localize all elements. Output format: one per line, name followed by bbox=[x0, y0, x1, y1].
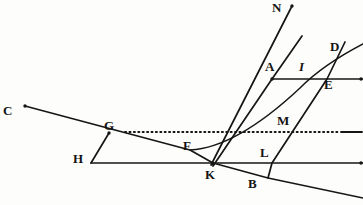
point-dots-group bbox=[23, 4, 362, 165]
figure-canvas: CGHFKBLMNAIDE bbox=[0, 0, 363, 205]
point-label-L: L bbox=[260, 146, 269, 159]
point-dot-A bbox=[270, 77, 273, 80]
point-label-A: A bbox=[265, 60, 274, 73]
ray-K-through-A-toward-D bbox=[213, 36, 302, 166]
endpoint-dot-C bbox=[23, 104, 26, 107]
point-label-G: G bbox=[104, 119, 114, 132]
point-label-D: D bbox=[330, 40, 339, 53]
ray-B-through-L-and-E-upward bbox=[268, 42, 345, 178]
endpoint-dot-axis-right bbox=[359, 77, 362, 80]
endpoint-dot-baseline-right bbox=[359, 161, 362, 164]
solid-lines-group bbox=[25, 6, 363, 198]
point-label-E: E bbox=[324, 78, 333, 91]
point-label-B: B bbox=[248, 177, 257, 190]
diagram-svg bbox=[0, 0, 363, 205]
segment-G-to-H bbox=[91, 133, 109, 163]
point-label-N: N bbox=[272, 1, 281, 14]
point-label-F: F bbox=[183, 139, 191, 152]
point-label-H: H bbox=[73, 152, 83, 165]
point-label-M: M bbox=[277, 114, 289, 127]
point-dot-K bbox=[211, 162, 214, 165]
endpoint-dot-N bbox=[290, 4, 293, 7]
point-label-I: I bbox=[299, 60, 304, 73]
point-label-C: C bbox=[3, 104, 12, 117]
point-label-K: K bbox=[205, 168, 215, 181]
